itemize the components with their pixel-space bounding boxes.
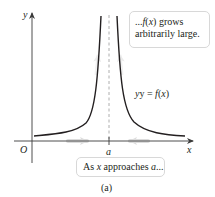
curve-label-x: x xyxy=(161,88,165,99)
approach-callout: As x approaches a... xyxy=(76,157,165,177)
y-axis-label: y xyxy=(23,10,27,20)
approach-suffix: ... xyxy=(156,161,164,172)
origin-label: O xyxy=(20,145,27,155)
grows-text: grows xyxy=(156,16,183,27)
curve-label-arg: (x) xyxy=(158,88,169,99)
approach-prefix: As xyxy=(83,161,97,172)
curve-left-branch xyxy=(34,16,101,136)
growth-callout-line2: arbitrarily large. xyxy=(135,28,209,40)
asymptote-label: a xyxy=(106,147,111,157)
curve-label-eq: y = xyxy=(139,88,155,99)
growth-callout: ...f(x) grows arbitrarily large. xyxy=(129,11,210,48)
ellipsis: ... xyxy=(135,16,143,27)
figure-caption: (a) xyxy=(101,183,112,193)
curve-label: yy = f(x) xyxy=(135,89,169,99)
x-axis-label: x xyxy=(187,145,191,155)
growth-callout-line1: ...f(x) grows xyxy=(135,16,209,28)
approach-middle: approaches xyxy=(101,161,151,172)
func-arg: (x) xyxy=(145,16,156,27)
